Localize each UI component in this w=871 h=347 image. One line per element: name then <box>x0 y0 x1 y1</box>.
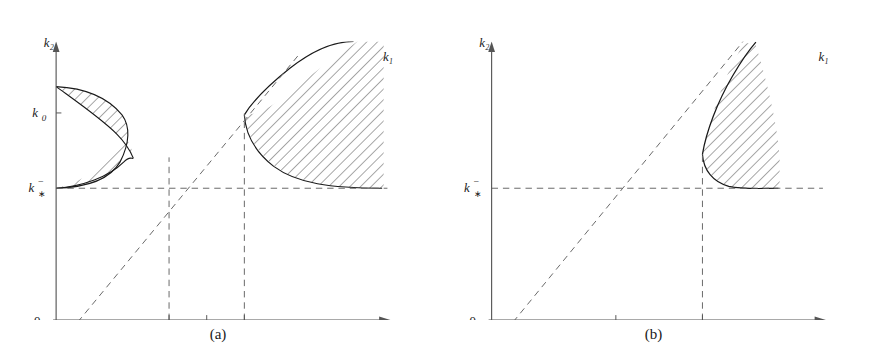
y-tick-kstar-sub: ∗ <box>474 189 482 199</box>
panel-a-caption: (a) <box>0 326 436 343</box>
x-axis-label: k₁ <box>818 50 828 64</box>
x-axis-arrow <box>815 317 826 320</box>
y-tick-label-k0: k 0 <box>32 106 47 123</box>
origin-label: 0 <box>34 314 40 320</box>
y-tick-kstar-sub: ∗ <box>38 189 46 199</box>
panel-a: k₂ k₁ 0 −k ∗ k 0 k ∗ − <box>0 0 436 347</box>
y-tick-kstar-base: k <box>28 181 34 195</box>
figure-root: k₂ k₁ 0 −k ∗ k 0 k ∗ − <box>0 0 871 347</box>
x-axis-label: k₁ <box>383 50 393 64</box>
origin-label: 0 <box>469 314 475 320</box>
y-axis-label: k₂ <box>479 36 490 50</box>
panel-b-caption: (b) <box>436 326 871 343</box>
y-axis-label-group: k₂ <box>44 36 55 50</box>
y-tick-kstar-sup: − <box>38 176 44 187</box>
x-axis-arrow <box>379 317 390 320</box>
panel-b-plot: k₂ k₁ 0 −k ∗ k ∗ − k 0 k̃ + <box>436 0 871 320</box>
right-wedge-region-fill <box>244 41 383 188</box>
y-tick-kstar-base: k <box>464 181 470 195</box>
diagonal-dashed-line <box>492 41 743 320</box>
y-tick-k0-sub: 0 <box>42 113 47 123</box>
y-tick-label-kstar-minus: k ∗ − <box>28 176 46 199</box>
panel-b: k₂ k₁ 0 −k ∗ k ∗ − k 0 k̃ + (b) <box>436 0 871 347</box>
y-tick-label-kstar-minus: k ∗ − <box>464 176 482 199</box>
y-axis-label: k₂ <box>44 36 55 50</box>
y-tick-k0-base: k <box>32 106 38 120</box>
left-crescent-region-fill <box>56 87 133 189</box>
panel-a-plot: k₂ k₁ 0 −k ∗ k 0 k ∗ − <box>0 0 436 320</box>
y-tick-kstar-sup: − <box>474 176 480 187</box>
